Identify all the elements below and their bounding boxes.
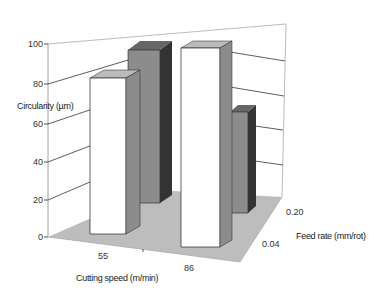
y-tick-80: 80 <box>33 79 43 89</box>
y-tick-100: 100 <box>28 39 43 49</box>
y-axis-label: Circularity (µm) <box>17 101 74 111</box>
z-category-0.04: 0.04 <box>262 239 280 249</box>
y-tick-0: 0 <box>38 232 43 242</box>
x-category-55: 55 <box>98 251 108 261</box>
bar-55-0.04 <box>90 70 140 234</box>
y-tick-60: 60 <box>33 119 43 129</box>
x-axis-label: Cutting speed (m/min) <box>76 273 159 283</box>
y-tick-labels: 100 80 60 40 20 0 <box>28 39 48 242</box>
z-axis-label: Feed rate (mm/rot) <box>296 231 366 241</box>
y-tick-20: 20 <box>33 195 43 205</box>
z-category-0.20: 0.20 <box>286 207 304 217</box>
x-category-86: 86 <box>184 263 194 273</box>
y-tick-40: 40 <box>33 157 43 167</box>
bar-86-0.04 <box>181 41 232 247</box>
chart-3d-column: 100 80 60 40 20 0 Circularity (µm) 55 86… <box>0 0 381 297</box>
bar-86-0.20 <box>230 105 256 213</box>
